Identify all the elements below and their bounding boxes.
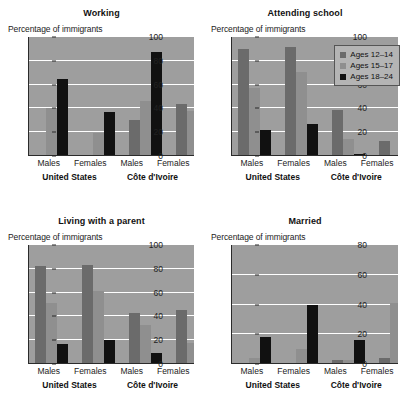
y-tick-label: 20 [345, 329, 367, 339]
y-axis-line [28, 245, 29, 364]
group-label: Males [315, 158, 357, 172]
group-label: Females [70, 158, 112, 172]
plot-area: 020406080100 [28, 37, 194, 156]
y-tick-label: 60 [141, 288, 163, 298]
chart-panel: MarriedPercentage of immigrants020406080… [203, 208, 407, 417]
bar-group [278, 37, 325, 156]
y-axis-line [28, 37, 29, 156]
y-tick-mark [52, 132, 56, 133]
y-tick-mark [52, 60, 56, 61]
bar [285, 47, 296, 156]
y-tick-label: 20 [141, 335, 163, 345]
group-label-row: MalesFemalesMalesFemales [231, 366, 398, 380]
y-tick-label: 40 [141, 103, 163, 113]
bar [93, 133, 104, 156]
y-tick-mark [52, 37, 56, 38]
y-tick-mark [255, 334, 259, 335]
bar [260, 337, 271, 364]
bar [46, 303, 57, 364]
country-label: Côte d'Ivoire [111, 380, 194, 394]
bar [82, 265, 93, 364]
bar-groups [28, 37, 194, 156]
legend-swatch-icon [340, 74, 346, 80]
group-label: Males [315, 366, 357, 380]
group-label: Females [70, 366, 112, 380]
y-tick-mark [52, 108, 56, 109]
y-tick-mark [255, 156, 259, 157]
legend-item: Ages 18–24 [340, 72, 393, 81]
y-tick-label: 100 [345, 32, 367, 42]
bar [187, 343, 194, 364]
group-label: Males [28, 158, 70, 172]
y-axis-line [231, 37, 232, 156]
y-tick-mark [52, 245, 56, 246]
country-label: Côte d'Ivoire [315, 172, 399, 186]
plot-area: 020406080100 [28, 245, 194, 364]
bar-group [75, 245, 122, 364]
group-label: Females [273, 158, 315, 172]
y-tick-label: 20 [141, 127, 163, 137]
y-tick-label: 100 [141, 32, 163, 42]
y-tick-mark [255, 245, 259, 246]
country-label: United States [231, 172, 315, 186]
y-axis-caption: Percentage of immigrants [8, 24, 102, 34]
bar [187, 111, 194, 156]
chart-legend: Ages 12–14Ages 15–17Ages 18–24 [334, 45, 400, 86]
legend-item: Ages 12–14 [340, 50, 393, 59]
group-label: Females [356, 366, 398, 380]
y-tick-mark [255, 274, 259, 275]
bar-group [231, 37, 278, 156]
chart-panel: Living with a parentPercentage of immigr… [0, 208, 203, 417]
country-label: United States [28, 172, 111, 186]
y-tick-mark [255, 364, 259, 365]
y-tick-mark [255, 132, 259, 133]
group-label-row: MalesFemalesMalesFemales [28, 158, 194, 172]
bar [104, 340, 115, 364]
y-tick-label: 60 [345, 270, 367, 280]
y-tick-mark [52, 364, 56, 365]
y-tick-mark [255, 108, 259, 109]
bar-group [278, 245, 325, 364]
bar [332, 110, 343, 156]
chart-panel: Attending schoolPercentage of immigrants… [203, 0, 407, 208]
legend-label: Ages 18–24 [350, 72, 393, 81]
y-tick-label: 80 [141, 56, 163, 66]
group-label: Males [111, 158, 153, 172]
legend-label: Ages 15–17 [350, 61, 393, 70]
group-label: Males [231, 158, 273, 172]
group-label: Males [231, 366, 273, 380]
y-axis-caption: Percentage of immigrants [8, 232, 102, 242]
y-tick-mark [255, 60, 259, 61]
bar [238, 49, 249, 156]
bar-groups [28, 245, 194, 364]
bar [176, 310, 187, 364]
y-tick-mark [52, 340, 56, 341]
country-label-row: United StatesCôte d'Ivoire [28, 172, 194, 186]
bar-group [169, 245, 194, 364]
bar [307, 124, 318, 156]
bar [260, 130, 271, 156]
panel-title: Married [203, 216, 407, 226]
panel-title: Attending school [203, 8, 407, 18]
y-tick-label: 20 [345, 127, 367, 137]
y-axis-caption: Percentage of immigrants [211, 232, 305, 242]
legend-label: Ages 12–14 [350, 50, 393, 59]
group-label: Females [273, 366, 315, 380]
country-label: United States [231, 380, 315, 394]
y-axis-line [231, 245, 232, 364]
bar [129, 120, 140, 156]
bar [57, 79, 68, 156]
bar [57, 344, 68, 364]
bar [176, 104, 187, 156]
y-tick-label: 40 [345, 300, 367, 310]
bar [379, 141, 390, 156]
y-tick-label: 100 [141, 240, 163, 250]
y-tick-mark [52, 292, 56, 293]
group-label-row: MalesFemalesMalesFemales [28, 366, 194, 380]
y-tick-label: 40 [345, 103, 367, 113]
bar [129, 313, 140, 364]
bar [307, 305, 318, 365]
bar [93, 291, 104, 364]
bar-group [169, 37, 194, 156]
group-label: Females [153, 366, 195, 380]
